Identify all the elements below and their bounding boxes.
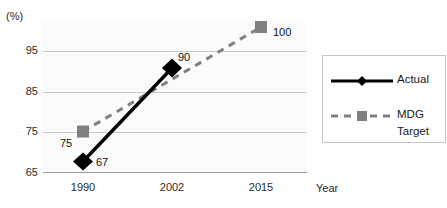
x-axis-title: Year: [316, 182, 338, 194]
legend: Actual MDG Target: [322, 55, 446, 143]
y-tick-label-65: 65: [0, 166, 38, 178]
legend-swatch-actual: [331, 74, 393, 88]
plot-area: [43, 21, 307, 173]
y-tick-label-85: 85: [0, 85, 38, 97]
data-label-target-1990: 75: [60, 137, 72, 149]
data-label-target-2015: 100: [273, 26, 291, 38]
x-tick-label-2002: 2002: [160, 181, 184, 193]
y-tick-label-95: 95: [0, 44, 38, 56]
x-axis-line: [43, 172, 307, 173]
data-label-actual-1990: 67: [96, 156, 108, 168]
y-tick-label-75: 75: [0, 125, 38, 137]
legend-label-actual: Actual: [397, 71, 445, 88]
y-axis-unit-label: (%): [6, 10, 23, 22]
x-tick-label-1990: 1990: [71, 181, 95, 193]
legend-swatch-mdg-target: [331, 109, 393, 123]
gridline-95: [43, 51, 307, 52]
x-tick-label-2015: 2015: [249, 181, 273, 193]
gridline-85: [43, 92, 307, 93]
data-label-actual-2002: 90: [178, 51, 190, 63]
legend-label-mdg-target: MDG Target: [397, 106, 445, 140]
gridline-75: [43, 132, 307, 133]
